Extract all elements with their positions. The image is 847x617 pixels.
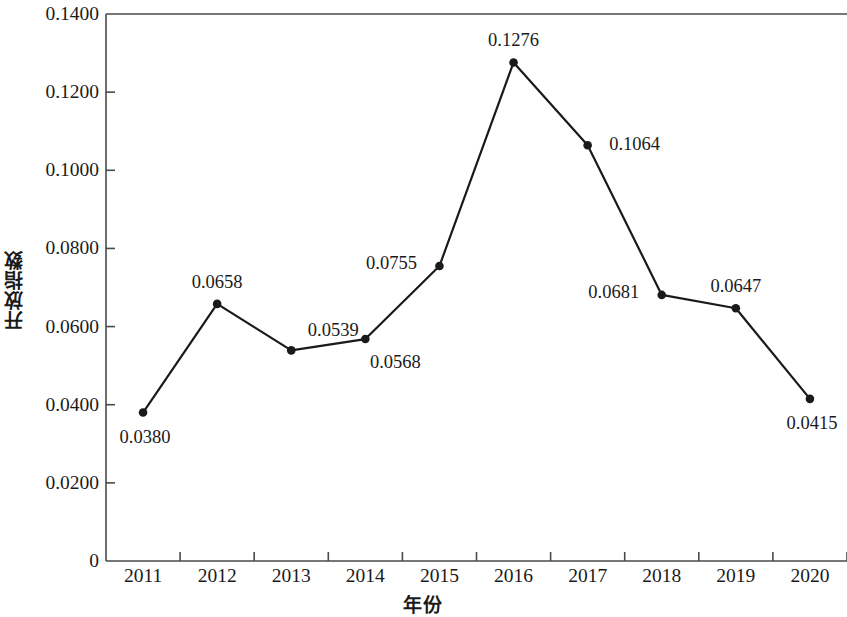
series-markers-group — [139, 58, 815, 417]
data-point-value-label: 0.1064 — [609, 135, 660, 154]
line-chart-figure: 开放指数 年份 00.02000.04000.06000.08000.10000… — [0, 0, 847, 617]
data-point-marker — [583, 141, 592, 150]
x-axis-title: 年份 — [106, 590, 847, 617]
data-point-marker — [732, 304, 741, 313]
data-point-value-label: 0.0415 — [787, 414, 838, 433]
x-tick-label: 2020 — [765, 566, 847, 586]
data-point-value-label: 0.0681 — [588, 283, 639, 302]
data-point-marker — [435, 262, 444, 271]
plot-area — [0, 0, 847, 617]
x-axis-title-text: 年份 — [403, 590, 443, 617]
y-ticks-group — [106, 92, 115, 483]
y-tick-label: 0.1400 — [0, 4, 99, 24]
data-point-value-label: 0.0539 — [308, 321, 359, 340]
data-point-marker — [657, 291, 666, 300]
x-ticks-group — [180, 552, 847, 561]
data-point-marker — [287, 346, 296, 355]
y-tick-label: 0 — [0, 551, 99, 571]
y-tick-label: 0.0400 — [0, 395, 99, 415]
data-point-marker — [213, 300, 222, 309]
data-point-marker — [139, 408, 148, 417]
data-point-value-label: 0.1276 — [488, 31, 539, 50]
data-point-marker — [509, 58, 518, 67]
data-point-marker — [806, 395, 815, 404]
data-point-value-label: 0.0755 — [366, 254, 417, 273]
y-tick-label: 0.0200 — [0, 473, 99, 493]
data-point-value-label: 0.0658 — [192, 273, 243, 292]
series-line — [143, 62, 810, 412]
y-tick-label: 0.1200 — [0, 82, 99, 102]
y-tick-label: 0.0800 — [0, 239, 99, 259]
data-point-value-label: 0.0380 — [120, 427, 171, 446]
data-point-value-label: 0.0568 — [370, 353, 421, 372]
y-tick-label: 0.1000 — [0, 161, 99, 181]
data-point-marker — [361, 335, 370, 344]
y-tick-label: 0.0600 — [0, 317, 99, 337]
data-point-value-label: 0.0647 — [710, 277, 761, 296]
